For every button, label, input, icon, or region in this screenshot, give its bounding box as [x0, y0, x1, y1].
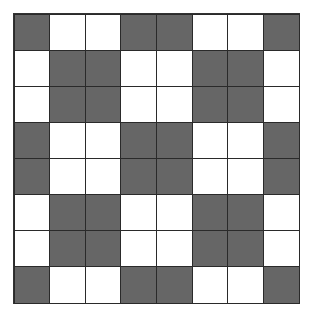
- grid-cell-dark: [156, 158, 193, 195]
- grid-cell-light: [263, 230, 300, 267]
- grid-cell-light: [85, 122, 122, 159]
- grid-cell-light: [192, 266, 229, 303]
- grid-cell-light: [49, 122, 86, 159]
- grid-cell-light: [192, 14, 229, 51]
- grid-cell-light: [85, 158, 122, 195]
- grid-cell-dark: [263, 122, 300, 159]
- grid-cell-dark: [14, 158, 51, 195]
- grid-cell-dark: [192, 194, 229, 231]
- grid-cell-light: [263, 194, 300, 231]
- grid-cell-light: [120, 50, 157, 87]
- grid-cell-light: [227, 158, 264, 195]
- grid-cell-dark: [49, 230, 86, 267]
- grid-cell-light: [14, 50, 51, 87]
- grid-cell-dark: [227, 86, 264, 123]
- grid-cell-light: [14, 86, 51, 123]
- grid-cell-light: [263, 86, 300, 123]
- grid-cell-dark: [120, 14, 157, 51]
- grid-cell-light: [156, 86, 193, 123]
- grid-cell-light: [227, 266, 264, 303]
- grid-cell-dark: [85, 86, 122, 123]
- grid-cell-dark: [49, 194, 86, 231]
- grid-cell-light: [85, 266, 122, 303]
- pattern-grid: [13, 13, 300, 304]
- grid-cell-light: [227, 14, 264, 51]
- grid-cell-light: [49, 14, 86, 51]
- grid-cell-dark: [192, 50, 229, 87]
- grid-cell-light: [227, 122, 264, 159]
- grid-cell-dark: [120, 158, 157, 195]
- grid-cell-light: [192, 158, 229, 195]
- grid-cell-light: [120, 86, 157, 123]
- grid-cell-dark: [263, 158, 300, 195]
- grid-cell-light: [120, 194, 157, 231]
- grid-cell-dark: [14, 266, 51, 303]
- grid-cell-dark: [192, 230, 229, 267]
- grid-cell-dark: [49, 86, 86, 123]
- grid-cell-dark: [192, 86, 229, 123]
- grid-cell-dark: [156, 266, 193, 303]
- grid-cell-light: [192, 122, 229, 159]
- grid-cell-light: [156, 50, 193, 87]
- grid-cell-dark: [49, 50, 86, 87]
- grid-cell-light: [14, 194, 51, 231]
- grid-cell-dark: [85, 194, 122, 231]
- grid-cell-dark: [120, 266, 157, 303]
- grid-cell-dark: [156, 122, 193, 159]
- grid-cell-light: [120, 230, 157, 267]
- grid-cell-light: [263, 50, 300, 87]
- grid-cell-dark: [14, 122, 51, 159]
- grid-cell-dark: [156, 14, 193, 51]
- grid-cell-dark: [85, 230, 122, 267]
- grid-cell-dark: [227, 50, 264, 87]
- grid-cell-dark: [263, 266, 300, 303]
- grid-cell-dark: [227, 230, 264, 267]
- grid-cell-light: [156, 230, 193, 267]
- grid-cell-light: [85, 14, 122, 51]
- grid-cell-dark: [120, 122, 157, 159]
- grid-cell-dark: [14, 14, 51, 51]
- grid-cell-light: [49, 266, 86, 303]
- grid-cell-light: [14, 230, 51, 267]
- grid-cell-light: [49, 158, 86, 195]
- grid-cell-dark: [85, 50, 122, 87]
- grid-cell-dark: [227, 194, 264, 231]
- grid-cell-dark: [263, 14, 300, 51]
- grid-cell-light: [156, 194, 193, 231]
